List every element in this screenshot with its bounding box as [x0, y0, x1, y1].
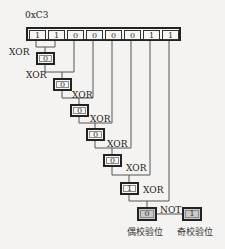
odd-parity-label: 奇校验位 [177, 225, 213, 238]
even-parity-label: 偶校验位 [127, 225, 163, 238]
xor-result-box: 1 [120, 182, 139, 195]
xor-result-box: 0 [86, 128, 105, 141]
xor-result-box: 0 [53, 78, 72, 91]
xor-label: XOR [126, 163, 146, 173]
bit-cell: 0 [124, 30, 141, 40]
hex-value-label: 0xC3 [25, 10, 48, 20]
xor-label: XOR [26, 70, 46, 80]
xor-result-box: 0 [36, 52, 55, 65]
xor-label: XOR [9, 47, 29, 57]
bit-cell: 1 [29, 30, 46, 40]
xor-label: XOR [72, 90, 92, 100]
bit-cell: 0 [105, 30, 122, 40]
bit-cell: 0 [86, 30, 103, 40]
xor-label: XOR [90, 114, 110, 124]
input-byte: 1 1 0 0 0 0 1 1 [26, 27, 181, 41]
xor-result-box: 0 [70, 104, 89, 117]
xor-result-box: 0 [103, 154, 122, 167]
parity-diagram: 0xC3 1 1 0 0 0 0 1 1 XOR XOR XOR XOR XOR… [0, 0, 225, 249]
not-label: NOT [160, 205, 181, 215]
bit-cell: 1 [162, 30, 179, 40]
bit-cell: 1 [143, 30, 160, 40]
odd-parity-box: 1 [182, 207, 202, 221]
xor-label: XOR [143, 185, 163, 195]
bit-cell: 1 [48, 30, 65, 40]
even-parity-box: 0 [137, 207, 157, 221]
bit-cell: 0 [67, 30, 84, 40]
xor-label: XOR [107, 139, 127, 149]
